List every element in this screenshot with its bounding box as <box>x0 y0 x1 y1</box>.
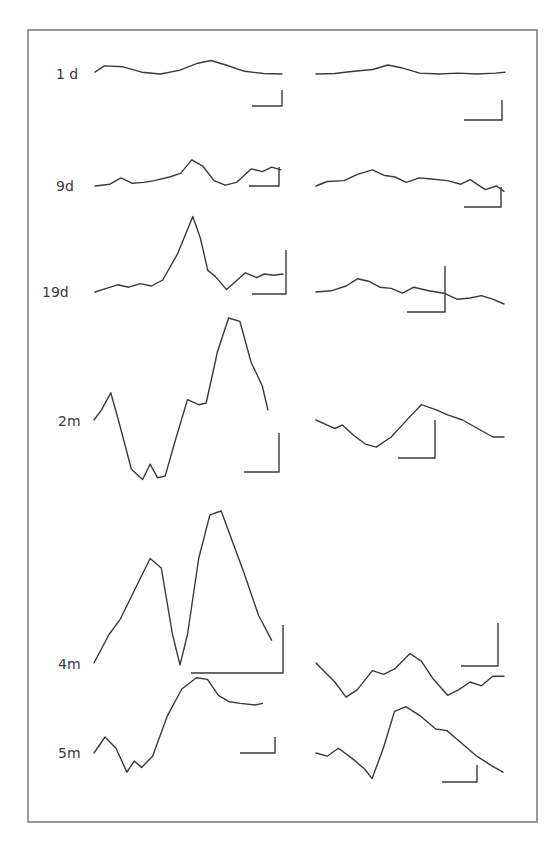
left-trace <box>94 678 262 772</box>
right-trace <box>316 170 504 192</box>
right-scale-bar <box>407 266 445 312</box>
age-label: 19d <box>42 284 69 300</box>
left-scale-bar <box>252 250 286 294</box>
age-label: 1 d <box>56 66 78 82</box>
left-trace <box>94 318 268 480</box>
left-trace <box>94 511 272 665</box>
right-trace <box>316 405 504 448</box>
right-scale-bar <box>461 623 498 666</box>
right-trace <box>316 65 505 74</box>
left-scale-bar <box>244 433 279 472</box>
right-scale-bar <box>464 187 501 207</box>
figure-frame <box>28 30 537 822</box>
rows-layer: 1 d9d19d2m4m5m <box>42 61 505 783</box>
right-trace <box>316 654 504 698</box>
left-scale-bar <box>252 90 282 106</box>
age-label: 4m <box>58 656 81 672</box>
row-0: 1 d <box>56 61 505 121</box>
row-5: 5m <box>58 678 503 782</box>
evoked-potential-figure: 1 d9d19d2m4m5m <box>0 0 556 858</box>
right-scale-bar <box>398 420 435 458</box>
row-4: 4m <box>58 511 504 697</box>
row-2: 19d <box>42 216 504 312</box>
left-scale-bar <box>240 737 275 753</box>
right-trace <box>316 279 504 304</box>
age-label: 2m <box>58 413 81 429</box>
right-scale-bar <box>442 765 477 782</box>
right-scale-bar <box>464 100 502 120</box>
age-label: 9d <box>56 178 74 194</box>
left-trace <box>95 160 281 186</box>
left-scale-bar <box>191 625 283 673</box>
row-1: 9d <box>56 160 504 207</box>
left-trace <box>95 216 283 292</box>
right-trace <box>316 707 503 779</box>
left-trace <box>95 61 282 75</box>
row-3: 2m <box>58 318 504 480</box>
age-label: 5m <box>58 745 81 761</box>
